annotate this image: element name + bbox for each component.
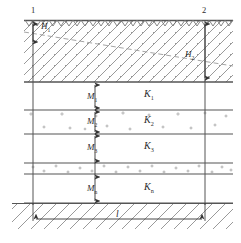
overburden-layer [24, 20, 233, 82]
m1-label: M1 [87, 92, 97, 103]
hydrogeological-cross-section-figure: 1 2 H1 H2 M1 M2 M3 Mn K1 K2 K3 Kn l [0, 0, 241, 243]
k2-label: K2 [144, 115, 154, 127]
diagram-canvas [0, 0, 241, 243]
kn-label: Kn [144, 182, 154, 194]
m3-label: M3 [87, 143, 97, 154]
bedrock-layer [12, 203, 233, 229]
k3-label: K3 [144, 141, 154, 153]
mn-label: Mn [87, 184, 97, 195]
l-dimension-label: l [116, 210, 119, 220]
k1-label: K1 [144, 89, 154, 101]
aquifer-dots-k2 [30, 112, 227, 130]
m2-label: M2 [87, 117, 97, 128]
layer-boundaries [24, 110, 233, 203]
well-2-label: 2 [202, 6, 206, 15]
well-1-label: 1 [31, 6, 35, 15]
aquifer-dots-lower [32, 165, 232, 173]
h1-label: H1 [41, 22, 50, 33]
h2-label: H2 [185, 50, 194, 61]
